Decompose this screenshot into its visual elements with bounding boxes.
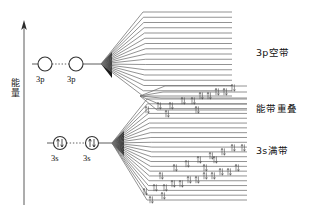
electron-pair-mark [227, 168, 231, 175]
electron-pair-mark [169, 102, 173, 109]
3p-band-lines [101, 12, 232, 96]
orbital-3p-left [38, 57, 52, 71]
band-level-line [101, 64, 232, 91]
orbital-3s-left [54, 137, 67, 150]
electron-pair-mark [231, 84, 235, 91]
electron-pair-mark [191, 97, 195, 104]
orbital-3p-right [69, 57, 83, 71]
electron-pair-mark [241, 144, 245, 151]
orbital-label-3p-right: 3p [67, 74, 76, 84]
electron-pair-mark [209, 152, 213, 159]
3s-band-lines [112, 99, 247, 200]
electron-pair-mark [203, 164, 207, 171]
electron-pair-mark [197, 156, 201, 163]
electron-pair-mark [213, 156, 217, 163]
band-level-line [112, 143, 247, 147]
orbital-label-3s-right: 3s [83, 153, 91, 163]
band-level-line [112, 118, 247, 143]
electron-pair-mark [157, 102, 161, 109]
energy-axis [21, 20, 27, 205]
band-label-3p-empty: 3p空带 [256, 45, 289, 59]
overlap-band-lines [140, 86, 247, 110]
electron-pair-mark [179, 180, 183, 187]
electron-pair-mark [171, 180, 175, 187]
energy-band-diagram-figure: 能 量 3p 3p 3s 3s 3p空带 能带重叠 3s满带 [0, 0, 316, 215]
electron-pair-mark [231, 144, 235, 151]
electron-pair-mark [161, 192, 165, 199]
electron-pair-mark [187, 176, 191, 183]
energy-axis-label-char-2: 量 [8, 88, 22, 98]
electron-pair-mark [173, 164, 177, 171]
energy-axis-label: 能 量 [8, 78, 22, 98]
band-level-line [112, 143, 247, 166]
electron-pair-mark [235, 164, 239, 171]
electron-pair-mark [219, 168, 223, 175]
band-level-line [112, 128, 247, 143]
electron-pair-mark [181, 97, 185, 104]
band-level-line [112, 143, 247, 186]
orbital-label-3p-left: 3p [36, 74, 45, 84]
orbital-3s-right [86, 137, 99, 150]
band-level-line [101, 64, 232, 65]
orbital-label-3s-left: 3s [51, 153, 59, 163]
band-level-line [140, 92, 247, 96]
energy-axis-label-char-1: 能 [8, 78, 22, 88]
band-label-overlap: 能带重叠 [256, 101, 297, 115]
electron-pair-mark [195, 176, 199, 183]
band-level-line [112, 142, 247, 143]
band-label-3s-full: 3s满带 [256, 143, 288, 157]
